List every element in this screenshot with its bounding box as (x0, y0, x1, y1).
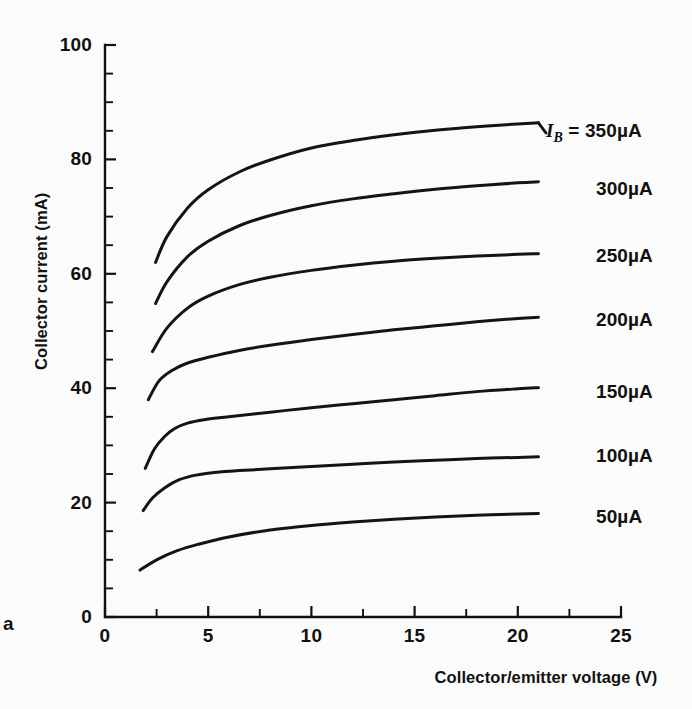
curve-150uA (145, 388, 538, 469)
curve-200uA (148, 317, 538, 399)
x-tick-label: 5 (183, 625, 233, 647)
series-value: 150µA (596, 381, 653, 402)
label-leader-lines (538, 123, 546, 133)
curve-series-group (140, 123, 538, 570)
base-current-subscript: B (554, 130, 563, 145)
y-tick-label: 40 (40, 377, 92, 399)
series-value: 200µA (596, 309, 653, 330)
series-value: 100µA (596, 445, 653, 466)
series-value: 300µA (596, 178, 653, 199)
y-tick-label: 80 (40, 148, 92, 170)
x-tick-label: 20 (493, 625, 543, 647)
figure-part-label: a (3, 613, 14, 635)
curve-250uA (152, 254, 538, 352)
curve-350uA (156, 123, 539, 263)
series-label-100uA: 100µA (596, 445, 653, 467)
series-value: 250µA (596, 245, 653, 266)
series-label-300uA: 300µA (596, 178, 653, 200)
base-current-symbol: I (546, 120, 554, 141)
figure-root: 0204060801000510152025 IB = 350µA300µA25… (0, 0, 692, 709)
x-tick-label: 15 (390, 625, 440, 647)
series-value: 350µA (585, 120, 642, 141)
series-label-200uA: 200µA (596, 309, 653, 331)
x-tick-label: 10 (286, 625, 336, 647)
series-label-250uA: 250µA (596, 245, 653, 267)
equals-sign: = (563, 120, 585, 141)
curve-300uA (156, 182, 539, 304)
characteristic-curves-plot (0, 0, 692, 709)
series-label-350uA: IB = 350µA (546, 120, 642, 146)
y-tick-label: 20 (40, 492, 92, 514)
curve-50uA (140, 513, 538, 570)
series-label-150uA: 150µA (596, 381, 653, 403)
series-value: 50µA (596, 506, 642, 527)
leader-line-350uA (538, 123, 546, 133)
x-tick-label: 0 (80, 625, 130, 647)
y-tick-label: 100 (40, 34, 92, 56)
series-label-50uA: 50µA (596, 506, 642, 528)
y-axis-title: Collector current (mA) (32, 193, 51, 370)
curve-100uA (143, 457, 538, 511)
x-tick-label: 25 (596, 625, 646, 647)
x-axis-title: Collector/emitter voltage (V) (400, 668, 692, 687)
